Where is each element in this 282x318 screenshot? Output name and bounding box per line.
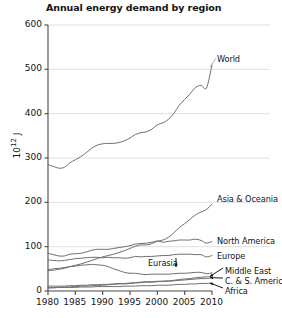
y-tick-label-300: 300 [4, 152, 42, 162]
series-label-c-s-america: C. & S. America [225, 276, 282, 286]
series-label-middle-east: Middle East [225, 266, 271, 276]
series-label-europe: Europe [217, 251, 245, 261]
annotation-arrows [175, 58, 223, 288]
y-tick-label-200: 200 [4, 196, 42, 206]
x-tick-label-2000: 2000 [145, 297, 168, 307]
y-tick-label-0: 0 [4, 285, 42, 295]
data-lines [48, 65, 212, 288]
x-tick-label-1985: 1985 [63, 297, 86, 307]
series-line-eurasia [48, 264, 212, 274]
x-tick-label-2005: 2005 [173, 297, 196, 307]
series-label-north-america: North America [217, 236, 275, 246]
y-tick-label-100: 100 [4, 241, 42, 251]
x-tick-label-2010: 2010 [200, 297, 223, 307]
leader-world [210, 58, 216, 67]
series-label-world: World [217, 54, 240, 64]
series-label-africa: Africa [225, 286, 248, 296]
x-tick-label-1995: 1995 [118, 297, 141, 307]
x-tick-label-1990: 1990 [91, 297, 114, 307]
y-tick-label-600: 600 [4, 19, 42, 29]
series-line-world [48, 65, 212, 168]
series-line-europe [48, 254, 212, 261]
y-tick-label-400: 400 [4, 108, 42, 118]
chart-container: Annual energy demand by region 1012 J 01… [0, 0, 282, 318]
series-label-asia-oceania: Asia & Oceania [217, 194, 278, 204]
y-tick-label-500: 500 [4, 63, 42, 73]
series-line-north-america [48, 239, 212, 256]
series-label-eurasia: Eurasia [148, 258, 178, 268]
series-line-asia-oceania [48, 204, 212, 270]
x-tick-label-1980: 1980 [36, 297, 59, 307]
